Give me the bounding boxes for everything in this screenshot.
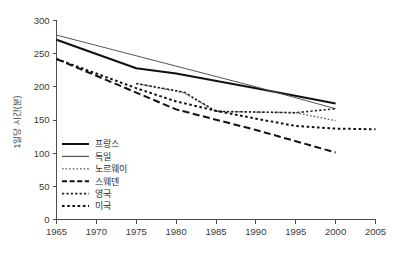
y-axis-ticks: 050100150200250300 — [34, 15, 57, 225]
series-line-2 — [57, 35, 336, 109]
y-tick-label: 200 — [34, 81, 50, 92]
chart-series-group — [57, 35, 376, 152]
x-tick-label: 1995 — [285, 226, 306, 237]
legend-label-3: 노르웨이 — [95, 163, 127, 174]
x-tick-label: 1965 — [46, 226, 67, 237]
chart-legend: 프랑스독일노르웨이스웨덴영국미국 — [62, 138, 127, 211]
legend-label-5: 영국 — [95, 189, 111, 199]
legend-label-6: 미국 — [95, 201, 111, 211]
chart-container: 050100150200250300 196519701975198019851… — [0, 0, 395, 253]
y-tick-label: 300 — [34, 15, 50, 26]
x-tick-label: 1970 — [86, 226, 107, 237]
y-tick-label: 150 — [34, 114, 50, 125]
y-axis-title-group: 1일당 시간(분) — [12, 95, 22, 148]
x-tick-label: 1985 — [205, 226, 226, 237]
x-tick-label: 1975 — [126, 226, 147, 237]
x-axis-ticks: 196519701975198019851990199520002005 — [46, 220, 386, 237]
y-tick-label: 50 — [39, 181, 50, 192]
x-tick-label: 1990 — [245, 226, 266, 237]
legend-label-2: 독일 — [95, 152, 111, 162]
legend-label-1: 프랑스 — [95, 138, 119, 149]
y-tick-label: 100 — [34, 148, 50, 159]
y-tick-label: 250 — [34, 48, 50, 59]
x-tick-label: 1980 — [166, 226, 187, 237]
y-axis-title: 1일당 시간(분) — [12, 95, 22, 148]
y-tick-label: 0 — [44, 214, 49, 225]
line-chart: 050100150200250300 196519701975198019851… — [0, 0, 395, 253]
x-tick-label: 2005 — [365, 226, 386, 237]
legend-label-4: 스웨덴 — [95, 176, 119, 187]
x-tick-label: 2000 — [325, 226, 346, 237]
